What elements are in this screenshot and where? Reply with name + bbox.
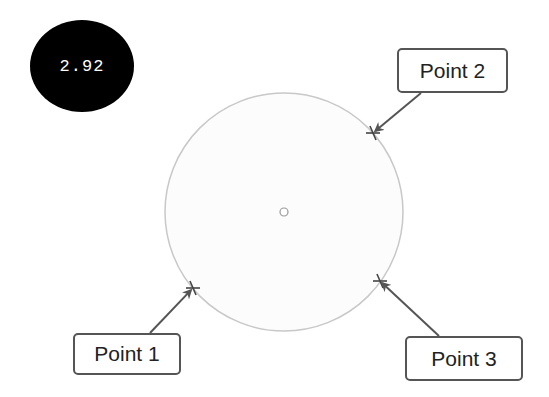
center-point-marker[interactable] [280, 208, 288, 216]
label-point-3-text: Point 3 [431, 347, 496, 371]
value-badge: 2.92 [30, 20, 134, 112]
label-point-3[interactable]: Point 3 [405, 336, 523, 381]
label-point-2[interactable]: Point 2 [397, 48, 508, 93]
point-3-arrow [382, 283, 439, 336]
label-point-2-text: Point 2 [420, 59, 485, 83]
point-1-arrow [150, 290, 191, 333]
label-point-1-text: Point 1 [94, 342, 159, 366]
point-2-arrow [375, 93, 421, 131]
value-badge-text: 2.92 [60, 57, 105, 76]
label-point-1[interactable]: Point 1 [73, 333, 181, 375]
